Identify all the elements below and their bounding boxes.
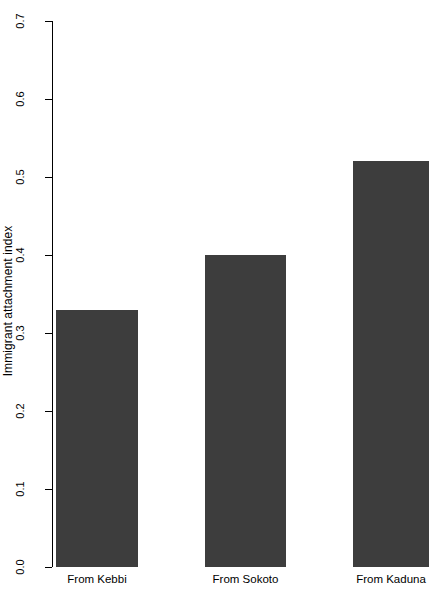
y-tick-mark (45, 255, 52, 256)
bar-chart: Immigrant attachment index 0.00.10.20.30… (0, 0, 435, 602)
y-tick-label: 0.7 (13, 1, 27, 41)
x-tick-label: From Kebbi (37, 572, 157, 586)
bar (353, 161, 429, 567)
y-tick-label: 0.5 (13, 157, 27, 197)
y-tick-label: 0.0 (13, 547, 27, 587)
x-tick-label: From Kaduna (331, 572, 435, 586)
y-tick-mark (45, 99, 52, 100)
y-tick-label: 0.1 (13, 469, 27, 509)
y-tick-mark (45, 489, 52, 490)
y-tick-label: 0.4 (13, 235, 27, 275)
y-axis-line (52, 21, 53, 567)
y-tick-mark (45, 177, 52, 178)
y-tick-mark (45, 411, 52, 412)
y-tick-label: 0.2 (13, 391, 27, 431)
y-tick-mark (45, 21, 52, 22)
y-tick-mark (45, 333, 52, 334)
x-tick-label: From Sokoto (186, 572, 306, 586)
y-tick-label: 0.3 (13, 313, 27, 353)
y-tick-mark (45, 567, 52, 568)
bar (205, 255, 286, 567)
y-tick-label: 0.6 (13, 79, 27, 119)
bar (56, 310, 138, 567)
